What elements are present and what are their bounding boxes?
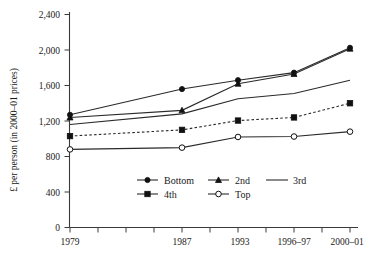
legend-item-3rd[interactable]: 3rd: [266, 175, 306, 186]
data-point-bottom-1987: [179, 86, 184, 91]
legend-label-2nd: 2nd: [235, 175, 250, 186]
legend-marker-top: [216, 191, 222, 197]
legend-item-top[interactable]: Top: [208, 189, 250, 200]
legend-label-bottom: Bottom: [164, 175, 194, 186]
x-axis-ticks: 1979 1987 1993 1996–97 2000–01: [61, 228, 364, 248]
legend-marker-bottom: [145, 177, 150, 182]
data-point-4th-1987: [179, 127, 184, 132]
data-point-top-1979: [67, 147, 73, 153]
y-axis-title: £ per person (in 2000–01 prices): [9, 68, 20, 192]
data-point-top-1996–97: [291, 134, 297, 140]
legend-label-top: Top: [235, 189, 250, 200]
series-line-top: [70, 132, 350, 150]
legend-item-bottom[interactable]: Bottom: [137, 175, 194, 186]
y-tick-label-0: 0: [55, 223, 60, 233]
legend-item-4th[interactable]: 4th: [137, 189, 177, 200]
x-tick-label-1979: 1979: [61, 237, 80, 247]
legend-label-4th: 4th: [164, 189, 177, 200]
series-line-bottom: [70, 48, 350, 115]
y-tick-label-1600: 1,600: [39, 81, 61, 91]
legend-item-2nd[interactable]: 2nd: [208, 175, 250, 186]
x-tick-label-1996-97: 1996–97: [277, 237, 311, 247]
series-2nd: [67, 46, 353, 120]
chart-legend: Bottom2nd3rd4thTop: [137, 175, 306, 200]
y-axis-ticks: 0 400 800 1,200 1,600 2,000 2,400: [39, 10, 70, 233]
data-point-4th-2000–01: [347, 101, 352, 106]
chart-canvas: £ per person (in 2000–01 prices) 0 400 8…: [0, 0, 371, 258]
data-point-top-1987: [179, 145, 185, 151]
x-tick-label-1993: 1993: [231, 237, 250, 247]
legend-label-3rd: 3rd: [293, 175, 306, 186]
series-3rd: [70, 80, 350, 124]
series-line-3rd: [70, 80, 350, 124]
data-point-4th-1979: [67, 133, 72, 138]
y-tick-label-2400: 2,400: [39, 10, 61, 20]
data-point-top-1993: [235, 134, 241, 140]
x-tick-label-2000-01: 2000–01: [330, 237, 364, 247]
data-point-top-2000–01: [347, 129, 353, 135]
y-tick-label-1200: 1,200: [39, 117, 61, 127]
y-tick-label-800: 800: [46, 152, 61, 162]
line-chart: £ per person (in 2000–01 prices) 0 400 8…: [0, 0, 371, 258]
data-point-4th-1993: [235, 118, 240, 123]
series-line-4th: [70, 103, 350, 136]
legend-marker-4th: [145, 191, 150, 196]
series-layer: [67, 45, 353, 152]
y-tick-label-2000: 2,000: [39, 46, 61, 56]
series-top: [67, 129, 353, 152]
series-line-2nd: [70, 49, 350, 118]
data-point-4th-1996–97: [291, 115, 296, 120]
y-axis-title-text: £ per person (in 2000–01 prices): [9, 68, 20, 192]
y-tick-label-400: 400: [46, 188, 61, 198]
x-tick-label-1987: 1987: [173, 237, 192, 247]
